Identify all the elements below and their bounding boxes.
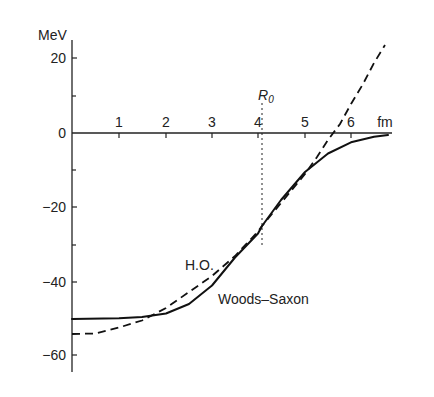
x-ticks: [119, 133, 351, 138]
y-tick-label: −40: [42, 274, 66, 290]
potential-chart: MeV 20 0 −20 −40 −60 1 2 3 4 5 6 fm R0 H…: [0, 0, 434, 397]
x-axis-unit-label: fm: [377, 114, 393, 130]
x-tick-label: 6: [347, 114, 355, 130]
y-tick-label: −20: [42, 199, 66, 215]
x-tick-label: 4: [254, 114, 262, 130]
r0-main: R: [258, 87, 268, 103]
r0-label: R0: [258, 87, 274, 105]
y-tick-label: 0: [58, 125, 66, 141]
x-tick-label: 2: [162, 114, 170, 130]
r0-sub: 0: [268, 94, 274, 105]
ho-series-label: H.O.: [185, 257, 214, 273]
x-tick-label: 5: [301, 114, 309, 130]
y-ticks: [72, 58, 77, 355]
woods-saxon-series-label: Woods–Saxon: [218, 291, 309, 307]
y-axis-unit-label: MeV: [38, 27, 67, 43]
y-tick-label: −60: [42, 347, 66, 363]
y-tick-label: 20: [50, 50, 66, 66]
x-tick-label: 3: [208, 114, 216, 130]
x-tick-label: 1: [115, 114, 123, 130]
